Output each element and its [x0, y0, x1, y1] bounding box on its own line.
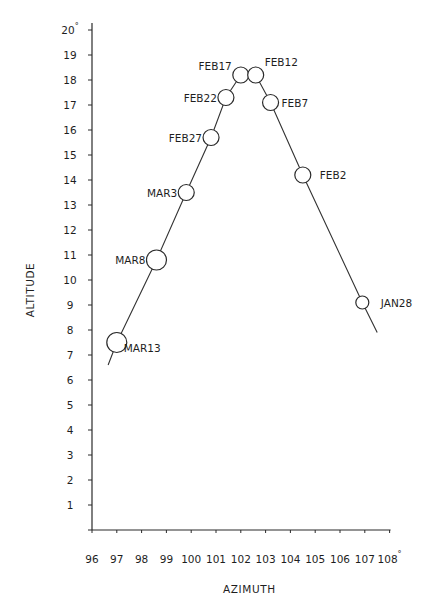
x-tick-label: 105	[305, 553, 325, 565]
x-tick-label: 108°	[378, 550, 402, 565]
y-tick-label: 9	[67, 299, 74, 311]
y-tick-label: 19	[63, 49, 76, 61]
data-point-jan28: JAN28	[356, 296, 412, 309]
point-label: MAR13	[124, 342, 161, 354]
data-point-feb17: FEB17	[199, 60, 249, 83]
y-tick-label: 15	[63, 149, 76, 161]
y-tick-label: 7	[67, 349, 74, 361]
x-tick-label: 101	[206, 553, 226, 565]
altitude-azimuth-chart: 1234567891011121314151617181920° 9697989…	[0, 0, 435, 612]
y-tick-label: 17	[63, 99, 76, 111]
y-tick-label: 6	[67, 374, 74, 386]
x-tick-label: 96	[85, 553, 99, 565]
point-label: JAN28	[380, 297, 412, 309]
circle-marker-icon	[295, 167, 311, 183]
sun-track-line	[108, 75, 377, 365]
data-point-feb27: FEB27	[169, 130, 219, 146]
x-tick-label: 97	[110, 553, 123, 565]
data-point-mar3: MAR3	[147, 185, 194, 201]
x-axis: 96979899100101102103104105106107108°	[85, 530, 401, 565]
circle-marker-icon	[356, 296, 369, 309]
point-label: FEB27	[169, 132, 202, 144]
y-tick-label: 1	[67, 499, 74, 511]
circle-marker-icon	[218, 90, 234, 106]
x-tick-label: 106	[330, 553, 350, 565]
data-point-feb12: FEB12	[248, 56, 298, 83]
x-tick-label: 98	[135, 553, 148, 565]
y-tick-label: 14	[63, 174, 77, 186]
x-tick-label: 102	[231, 553, 251, 565]
point-label: FEB7	[282, 97, 309, 109]
y-tick-label: 18	[63, 74, 76, 86]
x-tick-label: 100	[181, 553, 201, 565]
data-point-mar8: MAR8	[115, 250, 166, 270]
y-tick-label: 20°	[61, 22, 78, 36]
circle-marker-icon	[263, 95, 279, 111]
data-point-feb7: FEB7	[263, 95, 309, 111]
data-point-feb2: FEB2	[295, 167, 347, 183]
y-tick-label: 13	[63, 199, 76, 211]
x-tick-label: 103	[256, 553, 276, 565]
data-points: MAR13MAR8MAR3FEB27FEB22FEB17FEB12FEB7FEB…	[107, 56, 412, 354]
circle-marker-icon	[203, 130, 219, 146]
point-label: FEB12	[265, 56, 298, 68]
point-label: FEB22	[184, 92, 217, 104]
y-tick-label: 10	[63, 274, 76, 286]
y-tick-label: 12	[63, 224, 76, 236]
circle-marker-icon	[178, 185, 194, 201]
circle-marker-icon	[146, 250, 166, 270]
y-tick-label: 8	[67, 324, 74, 336]
point-label: MAR3	[147, 187, 177, 199]
data-point-feb22: FEB22	[184, 90, 234, 106]
circle-marker-icon	[233, 67, 249, 83]
data-point-mar13: MAR13	[107, 333, 161, 354]
y-axis-title: ALTITUDE	[24, 263, 36, 318]
point-label: FEB2	[320, 169, 347, 181]
track-polyline	[108, 75, 377, 365]
circle-marker-icon	[248, 67, 264, 83]
y-tick-label: 11	[63, 249, 76, 261]
y-tick-label: 3	[67, 449, 74, 461]
x-tick-label: 104	[280, 553, 300, 565]
x-tick-label: 99	[160, 553, 173, 565]
chart-container: 1234567891011121314151617181920° 9697989…	[0, 0, 435, 612]
x-tick-label: 107	[355, 553, 375, 565]
point-label: MAR8	[115, 254, 145, 266]
y-tick-label: 5	[67, 399, 74, 411]
y-tick-label: 4	[67, 424, 74, 436]
y-axis: 1234567891011121314151617181920°	[61, 22, 92, 530]
y-tick-label: 2	[67, 474, 74, 486]
x-axis-title: AZIMUTH	[223, 583, 276, 595]
point-label: FEB17	[199, 60, 232, 72]
y-tick-label: 16	[63, 124, 77, 136]
